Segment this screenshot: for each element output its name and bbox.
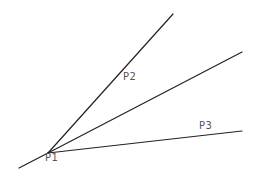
line-middle — [48, 52, 242, 153]
label-p2: P2 — [123, 72, 136, 82]
label-p3: P3 — [199, 121, 212, 131]
line-p1-p3 — [48, 131, 242, 153]
line-extension-lower-left — [19, 153, 48, 168]
label-p1: P1 — [45, 153, 58, 163]
diagram-canvas — [0, 0, 258, 176]
line-p1-p2 — [48, 14, 173, 153]
